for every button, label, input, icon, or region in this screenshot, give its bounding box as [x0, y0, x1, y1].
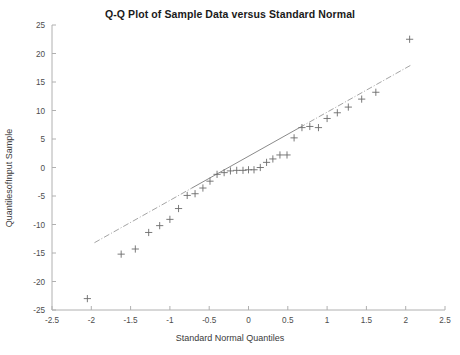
- x-tick-label: -1.5: [124, 316, 139, 325]
- x-tick-label: 2.5: [439, 316, 451, 325]
- y-tick-label: -25: [33, 306, 45, 315]
- data-point-marker: [276, 151, 283, 158]
- reference-line: [94, 65, 412, 243]
- y-tick-label: -5: [38, 192, 46, 201]
- data-point-marker: [221, 169, 228, 176]
- y-tick-label: 20: [36, 50, 46, 59]
- data-point-marker: [206, 178, 213, 185]
- x-tick-label: 1: [325, 316, 330, 325]
- data-points: [84, 36, 413, 303]
- data-point-marker: [166, 216, 173, 223]
- y-tick-label: 15: [36, 78, 46, 87]
- data-point-marker: [227, 167, 234, 174]
- y-tick-label: -10: [33, 221, 45, 230]
- y-tick-label: 0: [40, 164, 45, 173]
- data-point-marker: [324, 115, 331, 122]
- data-point-marker: [175, 205, 182, 212]
- y-tick-label: 5: [40, 135, 45, 144]
- data-point-marker: [199, 184, 206, 191]
- y-tick-label: 25: [36, 21, 46, 30]
- data-point-marker: [191, 190, 198, 197]
- x-tick-label: 0: [246, 316, 251, 325]
- x-tick-label: -2.5: [45, 316, 60, 325]
- data-point-marker: [184, 192, 191, 199]
- x-tick-label: -1: [166, 316, 174, 325]
- data-point-marker: [263, 159, 270, 166]
- x-tick-label: 1.5: [361, 316, 373, 325]
- data-point-marker: [334, 109, 341, 116]
- y-tick-label: -15: [33, 249, 45, 258]
- data-point-marker: [290, 134, 297, 141]
- x-tick-label: -0.5: [202, 316, 217, 325]
- data-point-marker: [406, 36, 413, 43]
- data-point-marker: [358, 96, 365, 103]
- data-point-marker: [315, 124, 322, 131]
- x-tick-label: -2: [88, 316, 96, 325]
- data-point-marker: [269, 155, 276, 162]
- qq-plot-figure: Q-Q Plot of Sample Data versus Standard …: [0, 0, 460, 355]
- data-point-marker: [257, 164, 264, 171]
- data-point-marker: [345, 103, 352, 110]
- data-point-marker: [132, 245, 139, 252]
- data-point-marker: [250, 166, 257, 173]
- x-tick-label: 2: [403, 316, 408, 325]
- data-point-marker: [233, 167, 240, 174]
- y-tick-label: -20: [33, 278, 45, 287]
- data-point-marker: [283, 151, 290, 158]
- x-tick-label: 0.5: [282, 316, 294, 325]
- data-point-marker: [156, 222, 163, 229]
- data-point-marker: [306, 123, 313, 130]
- data-point-marker: [213, 171, 220, 178]
- data-point-marker: [84, 295, 91, 302]
- data-point-marker: [118, 251, 125, 258]
- y-tick-label: 10: [36, 107, 46, 116]
- data-point-marker: [239, 167, 246, 174]
- axis-tick-labels: -25-20-15-10-50510152025-2.5-2-1.5-1-0.5…: [33, 21, 451, 325]
- plot-canvas: -25-20-15-10-50510152025-2.5-2-1.5-1-0.5…: [0, 0, 460, 355]
- data-point-marker: [372, 89, 379, 96]
- data-point-marker: [145, 229, 152, 236]
